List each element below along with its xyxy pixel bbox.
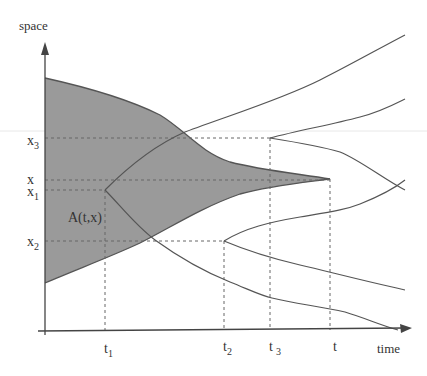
curve-t3-lower-tail (272, 298, 398, 330)
tick-label-t2: t2 (223, 339, 232, 357)
tick-label-x1: x1 (27, 184, 39, 202)
curve-t2-lower (224, 241, 405, 290)
tick-label-x2: x2 (27, 234, 39, 252)
time-axis (38, 328, 405, 331)
space-axis-label: space (19, 18, 48, 33)
time-axis-arrow-icon (400, 324, 412, 333)
time-axis-label: time (377, 341, 400, 356)
domain-of-dependence-diagram: space time x3 x x1 x2 t1 t2 t3 t A(t,x) (0, 0, 427, 376)
tick-label-t1: t1 (104, 341, 113, 359)
tick-label-x3: x3 (27, 133, 39, 151)
tick-label-t: t (333, 339, 337, 354)
region-label: A(t,x) (68, 210, 102, 226)
tick-label-t3: t3 (269, 339, 281, 357)
curve-t3-upper (270, 99, 405, 138)
space-axis-arrow-icon (41, 42, 49, 55)
